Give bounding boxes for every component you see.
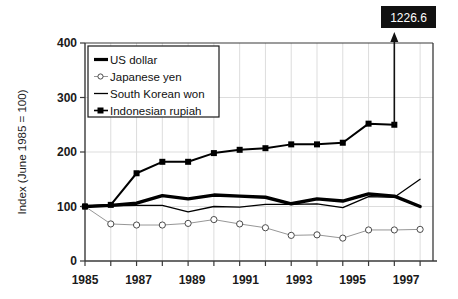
data-point-marker xyxy=(159,222,165,228)
data-point-marker xyxy=(237,147,243,153)
chart-legend: US dollar Japanese yen South Korean won … xyxy=(88,46,219,117)
data-point-marker xyxy=(211,216,217,222)
legend-item-south-korean-won[interactable]: South Korean won xyxy=(94,88,205,100)
chart-container: 400 300 200 100 0 1985 1987 1989 1991 19… xyxy=(0,0,458,299)
data-point-marker xyxy=(82,204,88,210)
data-point-marker xyxy=(391,227,397,233)
data-point-marker xyxy=(185,159,191,165)
data-point-marker xyxy=(340,140,346,146)
legend-label-south-korean-won: South Korean won xyxy=(110,88,205,100)
legend-swatch-open-circle-icon xyxy=(98,74,103,79)
data-point-marker xyxy=(108,202,114,208)
data-point-marker xyxy=(340,235,346,241)
data-point-marker xyxy=(365,227,371,233)
data-point-marker xyxy=(366,121,372,127)
data-point-marker xyxy=(211,150,217,156)
data-point-marker xyxy=(185,220,191,226)
legend-swatch-filled-square-icon xyxy=(98,108,104,114)
data-point-marker xyxy=(237,221,243,227)
data-point-marker xyxy=(108,221,114,227)
x-tick-label-1985: 1985 xyxy=(72,273,99,287)
data-point-marker xyxy=(133,222,139,228)
legend-label-us-dollar: US dollar xyxy=(110,54,157,66)
data-point-marker xyxy=(288,141,294,147)
y-tick-label-300: 300 xyxy=(57,91,77,105)
legend-item-indonesian-rupiah[interactable]: Indonesian rupiah xyxy=(94,105,201,117)
legend-label-japanese-yen: Japanese yen xyxy=(110,71,182,83)
x-tick-label-1993: 1993 xyxy=(286,273,313,287)
y-tick-label-0: 0 xyxy=(70,254,77,268)
x-tick-label-1995: 1995 xyxy=(339,273,366,287)
data-point-marker xyxy=(134,170,140,176)
y-axis-title: Index (June 1985 = 100) xyxy=(16,89,28,214)
data-point-marker xyxy=(314,232,320,238)
data-point-marker xyxy=(159,159,165,165)
line-chart: 400 300 200 100 0 1985 1987 1989 1991 19… xyxy=(0,0,458,299)
y-tick-label-200: 200 xyxy=(57,145,77,159)
x-tick-label-1987: 1987 xyxy=(125,273,152,287)
data-point-marker xyxy=(288,232,294,238)
x-tick-label-1991: 1991 xyxy=(232,273,259,287)
data-point-marker xyxy=(314,141,320,147)
data-point-marker xyxy=(262,225,268,231)
legend-label-indonesian-rupiah: Indonesian rupiah xyxy=(110,105,201,117)
y-tick-label-400: 400 xyxy=(57,36,77,50)
data-point-marker xyxy=(262,145,268,151)
callout-value-label: 1226.6 xyxy=(390,11,427,25)
x-tick-label-1989: 1989 xyxy=(179,273,206,287)
data-point-marker xyxy=(417,226,423,232)
y-tick-label-100: 100 xyxy=(57,200,77,214)
x-tick-label-1997: 1997 xyxy=(393,273,420,287)
